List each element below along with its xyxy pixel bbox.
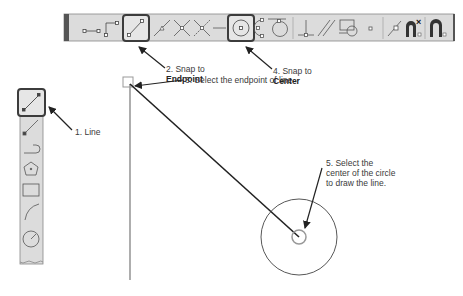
snap-to-endpoint-button[interactable] bbox=[123, 15, 149, 41]
line-button[interactable] bbox=[18, 89, 45, 116]
callout-step5: 5. Select the center of the circle to dr… bbox=[326, 158, 395, 188]
drawing-area bbox=[123, 77, 337, 280]
draw-toolbar bbox=[18, 89, 45, 264]
diagram-canvas: × bbox=[0, 0, 463, 296]
callout-step1: 1. Line bbox=[75, 127, 101, 137]
arrow-step1 bbox=[49, 107, 72, 130]
arrow-step2 bbox=[139, 47, 165, 68]
snap-to-center-button[interactable] bbox=[228, 15, 254, 41]
osnap-toolbar: × bbox=[64, 14, 454, 41]
callout-step5-line1: 5. Select the bbox=[326, 158, 395, 168]
snap-to-node-icon[interactable] bbox=[369, 27, 372, 30]
callout-step4: 4. Snap to Center bbox=[273, 66, 312, 86]
callout-step5-line2: center of the circle bbox=[326, 168, 395, 178]
new-line bbox=[130, 84, 299, 237]
callout-step4-line2: Center bbox=[273, 76, 312, 86]
callout-step5-line3: to draw the line. bbox=[326, 178, 395, 188]
callout-step4-line1: 4. Snap to bbox=[273, 66, 312, 76]
arrow-step5 bbox=[305, 168, 322, 228]
svg-text:×: × bbox=[416, 17, 421, 27]
arrow-step4 bbox=[246, 47, 272, 69]
callout-step2-line1: 2. Snap to bbox=[166, 64, 205, 74]
